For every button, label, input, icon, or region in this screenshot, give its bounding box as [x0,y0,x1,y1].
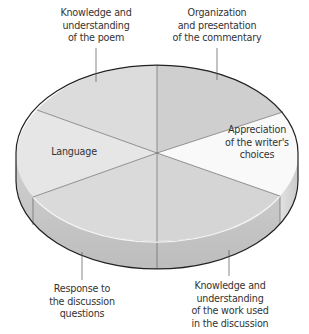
label-response: Response to the discussion questions [42,283,122,321]
label-language: Language [44,146,104,159]
label-organization: Organization and presentation of the com… [167,7,267,45]
label-knowledge-work: Knowledge and understanding of the work … [184,280,276,330]
label-appreciation: Appreciation of the writer's choices [214,124,300,162]
label-knowledge-poem: Knowledge and understanding of the poem [56,7,136,45]
